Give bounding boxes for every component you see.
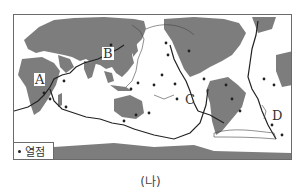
label-d: D	[271, 109, 283, 122]
legend-hotspot-label: 열점	[25, 143, 45, 159]
figure-caption: (나)	[0, 172, 301, 189]
label-c: C	[184, 93, 196, 106]
map-graphic	[14, 15, 292, 160]
label-a: A	[34, 73, 45, 86]
map-legend: 열점	[14, 142, 54, 159]
label-b: B	[102, 47, 114, 60]
hotspot-dot-icon	[18, 150, 21, 153]
world-map: A B C D 열점	[13, 14, 292, 160]
